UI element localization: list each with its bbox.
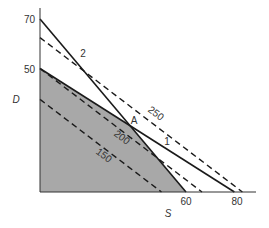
x-tick-80: 80 xyxy=(231,196,243,207)
y-tick-70: 70 xyxy=(24,14,36,25)
point-a-label: A xyxy=(131,115,138,126)
x-tick-60: 60 xyxy=(180,196,192,207)
feasible-region xyxy=(40,69,186,193)
constraint-label-2: 2 xyxy=(80,48,86,59)
y-tick-50: 50 xyxy=(24,64,36,75)
x-axis-label: S xyxy=(165,208,172,219)
y-axis-label: D xyxy=(12,94,19,105)
iso-label-250: 250 xyxy=(146,104,166,123)
constraint-label-1: 1 xyxy=(164,136,170,147)
linear-program-chart: 70 50 60 80 D S 2 1 A 250 200 150 xyxy=(0,0,269,228)
